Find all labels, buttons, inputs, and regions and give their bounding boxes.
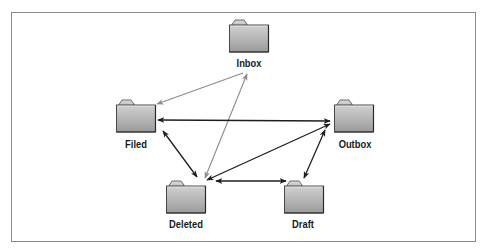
- edge-filed-outbox: [158, 120, 330, 121]
- node-deleted-label: Deleted: [166, 218, 206, 230]
- node-inbox-label: Inbox: [234, 57, 263, 69]
- edges: [157, 73, 330, 181]
- diagram-canvas: [0, 0, 489, 250]
- inbox-label-text: Inbox: [237, 57, 262, 69]
- edge-filed-deleted: [163, 131, 197, 177]
- edge-inbox-filed: [157, 73, 243, 104]
- edge-inbox-deleted: [205, 74, 247, 178]
- filed-label-text: Filed: [125, 138, 147, 150]
- node-outbox-label: Outbox: [336, 138, 375, 150]
- edge-outbox-draft: [304, 130, 325, 178]
- node-filed-label: Filed: [123, 138, 149, 150]
- outbox-label-text: Outbox: [339, 138, 372, 150]
- edge-outbox-deleted: [207, 124, 330, 180]
- draft-label-text: Draft: [292, 218, 314, 230]
- node-inbox-folder-icon[interactable]: [230, 20, 269, 52]
- node-outbox-folder-icon[interactable]: [335, 100, 374, 132]
- node-draft-label: Draft: [290, 218, 316, 230]
- node-draft-folder-icon[interactable]: [285, 181, 324, 213]
- node-deleted-folder-icon[interactable]: [167, 181, 206, 213]
- deleted-label-text: Deleted: [169, 218, 203, 230]
- node-filed-folder-icon[interactable]: [117, 100, 156, 132]
